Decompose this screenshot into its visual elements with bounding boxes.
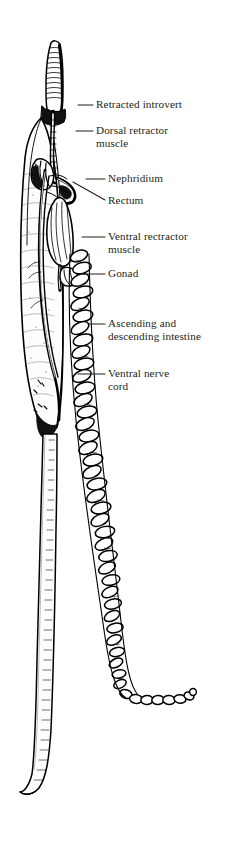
label-gonad: Gonad — [108, 267, 138, 280]
label-ventral-nerve-cord-2: cord — [108, 380, 128, 393]
label-ventral-retractor-2: muscle — [108, 243, 140, 256]
tail-group — [20, 434, 57, 794]
tail-outline — [20, 434, 57, 794]
label-descending-intestine: descending intestine — [108, 330, 201, 343]
label-rectum: Rectum — [108, 194, 143, 207]
rectum-knot — [60, 186, 71, 199]
label-dorsal-retractor: Dorsal retractor — [96, 124, 168, 137]
label-retracted-introvert: Retracted introvert — [96, 98, 182, 111]
leader-rectum — [73, 182, 105, 200]
label-ventral-nerve-cord: Ventral nerve — [108, 367, 169, 380]
label-dorsal-retractor-2: muscle — [96, 137, 128, 150]
organism-drawing — [20, 41, 196, 794]
label-nephridium: Nephridium — [108, 172, 163, 185]
label-ventral-retractor: Ventral rectractor — [108, 230, 188, 243]
label-ascending-intestine: Ascending and — [108, 317, 176, 330]
anatomy-figure: Retracted introvert Dorsal retractor mus… — [0, 0, 244, 856]
